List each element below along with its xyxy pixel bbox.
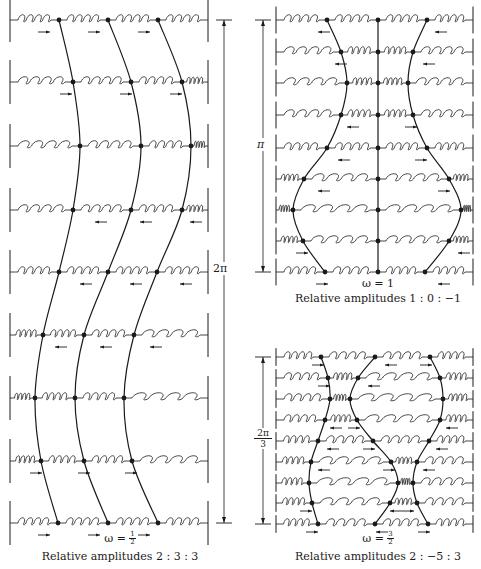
dimension-label-panel-3: 2π 3: [254, 428, 272, 449]
mass-dot: [376, 146, 381, 151]
mass-dot: [371, 439, 376, 444]
arrowhead-icon: [95, 220, 99, 223]
arrowhead-icon: [130, 282, 134, 285]
mass-dot: [415, 460, 420, 465]
caption-panel-3: Relative amplitudes 2 : −5 : 3: [290, 550, 466, 563]
spring: [35, 393, 75, 400]
mass-dot: [406, 81, 411, 86]
arrowhead-icon: [371, 447, 375, 450]
mass-dot: [328, 397, 333, 402]
mass-dot: [156, 18, 161, 23]
arrowhead-icon: [100, 345, 104, 348]
spring: [350, 394, 443, 401]
arrowhead-icon: [458, 251, 462, 254]
mass-dot: [41, 333, 46, 338]
omega-label-panel-2: ω = 1: [348, 277, 408, 290]
spring: [41, 456, 84, 463]
arrowhead-up-icon: [261, 357, 265, 363]
arrowhead-icon: [308, 509, 312, 512]
arrowhead-icon: [438, 282, 442, 285]
spring: [429, 436, 473, 443]
mass-dot: [396, 481, 401, 486]
arrowhead-icon: [428, 363, 432, 366]
spring: [276, 15, 327, 22]
spring: [276, 519, 318, 526]
spring: [347, 78, 378, 85]
mass-dot: [438, 418, 443, 423]
mass-dot: [180, 208, 185, 213]
arrowhead-icon: [80, 282, 84, 285]
omega-fraction: 12: [129, 531, 135, 546]
mass-dot: [310, 501, 315, 506]
spring: [276, 352, 321, 359]
mass-dot: [376, 18, 381, 23]
mass-dot: [376, 81, 381, 86]
mass-dot: [415, 501, 420, 506]
mass-dot: [302, 177, 307, 182]
spring: [375, 519, 428, 526]
spring: [276, 373, 328, 380]
mass-dot: [376, 239, 381, 244]
mass-dot: [39, 459, 44, 464]
spring: [131, 77, 182, 84]
spring: [358, 373, 440, 380]
spring: [59, 267, 108, 274]
spring: [158, 15, 208, 22]
mass-dot: [376, 208, 381, 213]
spring: [378, 267, 425, 274]
mass-dot: [376, 50, 381, 55]
spring: [276, 143, 327, 150]
mass-dot: [71, 80, 76, 85]
spring: [10, 393, 35, 399]
mass-dot: [373, 355, 378, 360]
spring: [10, 205, 73, 212]
arrowhead-icon: [150, 345, 154, 348]
spring: [440, 415, 473, 422]
mass-dot: [78, 144, 83, 149]
arrowhead-icon: [356, 426, 360, 429]
spring: [375, 352, 430, 359]
mass-dot: [82, 333, 87, 338]
arrowhead-icon: [330, 426, 334, 429]
arrowhead-icon: [190, 220, 194, 223]
spring: [449, 174, 473, 180]
mass-dot: [326, 376, 331, 381]
spring: [182, 77, 208, 83]
spring: [318, 436, 373, 443]
mass-dot: [325, 18, 330, 23]
arrowhead-icon: [146, 30, 150, 33]
arrowhead-icon: [140, 220, 144, 223]
mass-dot: [411, 481, 416, 486]
arrowhead-icon: [38, 471, 42, 474]
spring: [325, 267, 378, 274]
dimension-label-panel-1: 2π: [213, 262, 227, 275]
mass-dot: [425, 18, 430, 23]
mass-dot: [155, 270, 160, 275]
spring: [378, 174, 449, 181]
mass-dot: [447, 239, 452, 244]
mass-dot: [307, 481, 312, 486]
arrowhead-icon: [423, 158, 427, 161]
spring: [157, 267, 208, 274]
caption-panel-1: Relative amplitudes 2 : 3 : 3: [30, 550, 210, 563]
spring: [276, 110, 341, 117]
arrowhead-icon: [304, 251, 308, 254]
mass-dot: [122, 396, 127, 401]
mass-dot: [309, 460, 314, 465]
spring: [276, 78, 347, 85]
arrowhead-icon: [327, 447, 331, 450]
spring: [182, 205, 208, 211]
spring: [325, 415, 357, 422]
mass-dot: [301, 239, 306, 244]
arrowhead-icon: [335, 62, 339, 65]
arrowhead-icon: [423, 468, 427, 471]
mass-dot: [316, 439, 321, 444]
arrowhead-icon: [338, 158, 342, 161]
mass-dot: [156, 521, 161, 526]
spring: [43, 330, 84, 337]
spring: [427, 15, 473, 22]
mass-dot: [129, 80, 134, 85]
mass-dot: [189, 144, 194, 149]
spring: [425, 267, 473, 274]
mass-dot: [376, 177, 381, 182]
